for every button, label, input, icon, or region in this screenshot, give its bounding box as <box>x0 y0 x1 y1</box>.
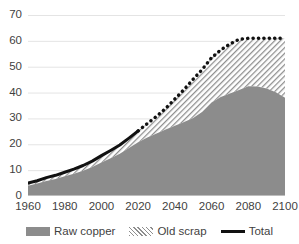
legend-label-raw-copper: Raw copper <box>54 225 115 237</box>
legend-item-raw-copper: Raw copper <box>26 225 115 237</box>
y-tick-label-70: 70 <box>0 9 22 21</box>
hatched-swatch <box>129 227 153 236</box>
y-tick-label-50: 50 <box>0 61 22 73</box>
chart-legend: Raw copper Old scrap Total <box>0 222 299 240</box>
x-tick-label-2080: 2080 <box>228 200 268 212</box>
plot-area <box>28 15 285 196</box>
x-tick-label-2100: 2100 <box>265 200 299 212</box>
x-axis: 19601980200020202040206020802100 <box>28 200 285 216</box>
x-tick-label-1980: 1980 <box>45 200 85 212</box>
y-tick-label-20: 20 <box>0 138 22 150</box>
y-tick-label-40: 40 <box>0 87 22 99</box>
solid-gray-swatch <box>26 227 50 236</box>
x-tick-label-2040: 2040 <box>155 200 195 212</box>
x-tick-label-1960: 1960 <box>8 200 48 212</box>
x-tick-label-2020: 2020 <box>118 200 158 212</box>
x-tick-label-2060: 2060 <box>192 200 232 212</box>
y-tick-label-30: 30 <box>0 112 22 124</box>
x-tick-label-2000: 2000 <box>81 200 121 212</box>
y-tick-label-60: 60 <box>0 35 22 47</box>
black-line-swatch <box>221 227 245 236</box>
y-tick-label-10: 10 <box>0 164 22 176</box>
legend-item-total: Total <box>221 225 273 237</box>
copper-supply-chart: 010203040506070 196019802000202020402060… <box>0 0 299 244</box>
raw-copper-area <box>28 86 285 196</box>
legend-label-old-scrap: Old scrap <box>157 225 206 237</box>
chart-plot-svg <box>28 15 285 196</box>
chart-title <box>0 0 299 2</box>
legend-label-total: Total <box>249 225 273 237</box>
legend-item-old-scrap: Old scrap <box>129 225 206 237</box>
